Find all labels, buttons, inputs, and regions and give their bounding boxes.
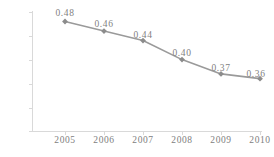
data-point-2005: [62, 19, 68, 25]
data-label-2007: 0.44: [123, 31, 163, 41]
data-label-2005: 0.48: [45, 9, 85, 19]
data-label-2009: 0.37: [201, 64, 241, 74]
data-label-2008: 0.40: [162, 49, 202, 59]
data-series: [0, 0, 274, 157]
data-label-2010: 0.36: [236, 70, 274, 80]
line-chart: 0.5 0.45 0.4 0.35 0.3 0.25 2005 2006 200…: [0, 0, 274, 157]
data-label-2006: 0.46: [84, 20, 124, 30]
